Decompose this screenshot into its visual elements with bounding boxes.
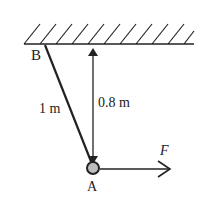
label-point-b: B [31,47,41,63]
label-point-a: A [87,179,98,194]
ceiling-hatch [24,24,194,44]
label-rope-length: 1 m [39,101,61,116]
pendulum-diagram: B 1 m 0.8 m A F [0,0,199,222]
label-height: 0.8 m [98,95,130,110]
ball-a [87,162,99,174]
label-force: F [159,143,169,158]
